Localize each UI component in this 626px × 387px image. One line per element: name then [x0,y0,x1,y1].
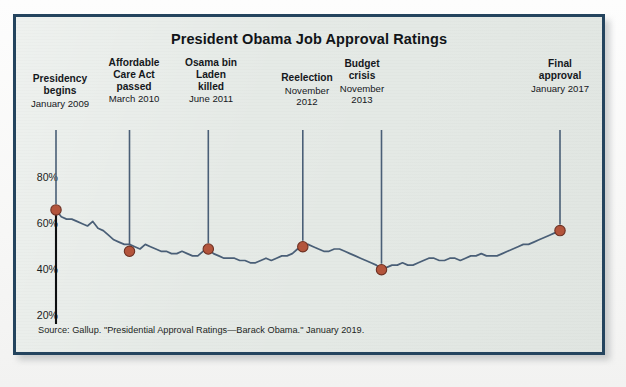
approval-line [56,210,560,270]
marker-budget-crisis [376,265,386,275]
figure-inner: President Obama Job Approval Ratings Pre… [16,17,602,352]
source-note: Source: Gallup. "Presidential Approval R… [38,325,364,335]
approval-line-chart [16,17,608,358]
marker-reelection [298,242,308,252]
page-root: President Obama Job Approval Ratings Pre… [0,0,626,387]
marker-affordable-care-act [124,246,134,256]
marker-osama-bin-laden [203,244,213,254]
event-markers [51,205,565,275]
marker-final-approval [555,225,565,235]
marker-presidency-begins [51,205,61,215]
figure-frame: President Obama Job Approval Ratings Pre… [13,14,605,355]
